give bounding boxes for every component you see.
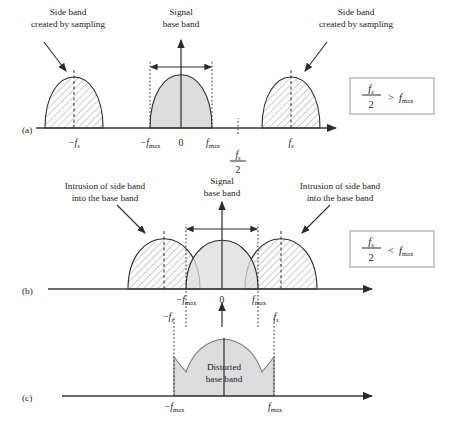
right-intrusion-annotation-line1: Intrusion of side band [300, 181, 381, 191]
panel-label-b: (b) [22, 286, 33, 296]
figure-canvas: Side band created by sampling Signal bas… [0, 0, 449, 431]
condition-box-b: fs 2 < fmax [350, 231, 434, 267]
distorted-base-band-label-line2: base band [206, 374, 243, 384]
center-baseband-annotation-line2-b: base band [204, 188, 241, 198]
tick-label-zero-b: 0 [220, 294, 225, 305]
condition-relation-a: > [388, 92, 394, 103]
sampling-aliasing-figure: Side band created by sampling Signal bas… [0, 0, 449, 431]
left-side-band-annotation-line1: Side band [50, 7, 87, 17]
condition-denominator-b: 2 [368, 252, 373, 263]
panel-label-a: (a) [22, 125, 32, 135]
condition-denominator-a: 2 [368, 99, 373, 110]
distorted-base-band-label-line1: Distorted [207, 362, 242, 372]
left-side-band-annotation-line2: created by sampling [31, 19, 105, 29]
panel-label-c: (c) [22, 393, 32, 403]
right-side-band-annotation-line2: created by sampling [319, 19, 393, 29]
fs-half-denominator-a: 2 [236, 164, 241, 175]
center-baseband-annotation-line2-a: base band [163, 19, 200, 29]
condition-relation-b: < [388, 245, 394, 256]
center-baseband-annotation-line1-b: Signal [210, 176, 234, 186]
left-intrusion-annotation-line1: Intrusion of side band [65, 181, 146, 191]
condition-box-a: fs 2 > fmax [350, 78, 434, 114]
right-intrusion-annotation-line2: into the base band [307, 193, 374, 203]
left-intrusion-annotation-line2: into the base band [72, 193, 139, 203]
right-side-band-annotation-line1: Side band [338, 7, 375, 17]
center-baseband-annotation-line1-a: Signal [169, 7, 193, 17]
tick-label-zero-a: 0 [179, 137, 184, 148]
